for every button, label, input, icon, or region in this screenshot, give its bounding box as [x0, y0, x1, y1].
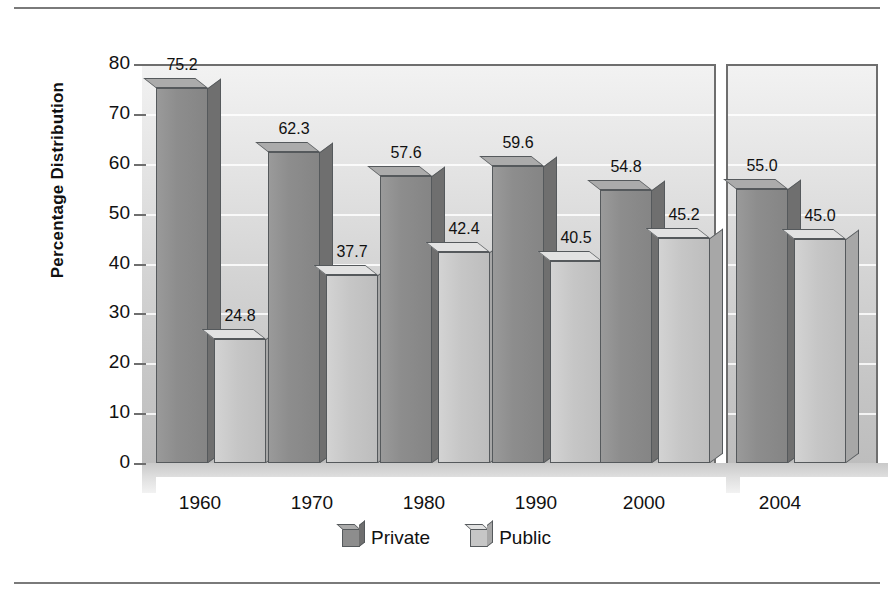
bar-front-face	[550, 261, 602, 463]
bar-front-face	[380, 176, 432, 463]
bar-value-label: 45.0	[804, 207, 835, 225]
bar-front-face	[214, 339, 266, 463]
y-axis-tick: 70	[88, 114, 146, 115]
y-axis-title: Percentage Distribution	[48, 30, 68, 330]
bar-value-label: 54.8	[610, 158, 641, 176]
x-axis-label-1990: 1990	[515, 492, 557, 514]
bar-side-face	[846, 229, 859, 463]
bar-public: 40.5	[550, 261, 602, 463]
bar-side-face	[710, 228, 723, 463]
bar-private: 75.2	[156, 88, 208, 463]
y-axis-tick: 30	[88, 313, 146, 314]
legend-label: Private	[371, 527, 430, 549]
y-axis-tick: 80	[88, 64, 146, 65]
y-axis-tick: 60	[88, 164, 146, 165]
y-axis-tick-label: 50	[88, 202, 130, 224]
y-axis-tick: 50	[88, 214, 146, 215]
bar-value-label: 75.2	[166, 56, 197, 74]
bar-front-face	[268, 152, 320, 463]
bar-value-label: 42.4	[448, 220, 479, 238]
y-axis-tick-label: 10	[88, 401, 130, 423]
bar-front-face	[736, 189, 788, 463]
bar-front-face	[492, 166, 544, 463]
y-axis-tick: 20	[88, 363, 146, 364]
bar-value-label: 59.6	[502, 134, 533, 152]
bar-public: 37.7	[326, 275, 378, 463]
y-axis-tick-label: 80	[88, 52, 130, 74]
bar-value-label: 57.6	[390, 144, 421, 162]
y-axis-tick-mark	[134, 413, 146, 415]
bar-front-face	[600, 190, 652, 463]
x-axis-label-2000: 2000	[623, 492, 665, 514]
bar-chart-figure: Percentage Distribution 8070605040302010…	[0, 0, 893, 599]
y-axis-tick-mark	[134, 313, 146, 315]
y-axis-tick-mark	[134, 214, 146, 216]
bar-front-face	[794, 239, 846, 463]
legend-item-private[interactable]: Private	[342, 527, 430, 549]
y-axis-tick-label: 20	[88, 351, 130, 373]
bar-front-face	[658, 238, 710, 463]
y-axis-tick-mark	[134, 264, 146, 266]
chart-floor-break	[726, 463, 888, 493]
bar-private: 59.6	[492, 166, 544, 463]
bar-public: 24.8	[214, 339, 266, 463]
bar-private: 54.8	[600, 190, 652, 463]
bar-value-label: 62.3	[278, 120, 309, 138]
y-axis-tick: 0	[88, 463, 146, 464]
y-axis-tick-mark	[134, 64, 146, 66]
y-axis-tick-mark	[134, 363, 146, 365]
bar-value-label: 24.8	[224, 307, 255, 325]
bar-private: 55.0	[736, 189, 788, 463]
bar-private: 57.6	[380, 176, 432, 463]
bar-value-label: 40.5	[560, 229, 591, 247]
gridline	[728, 114, 876, 116]
gridline	[142, 114, 714, 116]
x-axis-label-1970: 1970	[291, 492, 333, 514]
chart-floor-main	[142, 463, 728, 493]
chart-legend: PrivatePublic	[0, 527, 893, 549]
x-axis-label-1980: 1980	[403, 492, 445, 514]
legend-item-public[interactable]: Public	[470, 527, 551, 549]
bar-public: 42.4	[438, 252, 490, 463]
y-axis-tick-label: 40	[88, 252, 130, 274]
legend-label: Public	[499, 527, 551, 549]
x-axis-label-2004: 2004	[759, 492, 801, 514]
y-axis-tick-mark	[134, 114, 146, 116]
bar-value-label: 45.2	[668, 206, 699, 224]
bar-value-label: 37.7	[336, 243, 367, 261]
y-axis-tick-label: 30	[88, 301, 130, 323]
legend-swatch-private-icon	[342, 529, 360, 547]
bar-front-face	[326, 275, 378, 463]
y-axis-tick-label: 0	[88, 451, 130, 473]
bar-public: 45.0	[794, 239, 846, 463]
bar-private: 62.3	[268, 152, 320, 463]
bar-front-face	[438, 252, 490, 463]
x-axis-label-1960: 1960	[179, 492, 221, 514]
y-axis-tick: 10	[88, 413, 146, 414]
legend-swatch-public-icon	[470, 529, 488, 547]
bar-public: 45.2	[658, 238, 710, 463]
bar-value-label: 55.0	[746, 157, 777, 175]
y-axis-tick-label: 60	[88, 152, 130, 174]
y-axis-tick-label: 70	[88, 102, 130, 124]
bar-front-face	[156, 88, 208, 463]
y-axis-tick: 40	[88, 264, 146, 265]
y-axis-tick-mark	[134, 463, 146, 465]
y-axis-tick-mark	[134, 164, 146, 166]
